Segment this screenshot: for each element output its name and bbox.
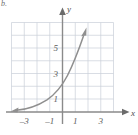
- exponential-graph-figure: b.: [0, 0, 138, 135]
- y-tick-label: 1: [54, 94, 59, 104]
- x-tick-label: –1: [44, 116, 54, 126]
- y-tick-labels: 1 3 5: [53, 43, 59, 104]
- x-tick-labels: –3 –1 1 3: [19, 116, 104, 126]
- x-tick-label: 3: [98, 116, 104, 126]
- coordinate-plane: –3 –1 1 3 1 3 5 y x: [0, 0, 138, 135]
- y-axis-label: y: [66, 4, 71, 14]
- y-tick-label: 3: [53, 69, 59, 79]
- x-tick-label: –3: [19, 116, 30, 126]
- x-axis-label: x: [130, 108, 135, 118]
- x-tick-label: 1: [73, 116, 78, 126]
- y-tick-label: 5: [54, 43, 59, 53]
- y-axis: [59, 8, 66, 125]
